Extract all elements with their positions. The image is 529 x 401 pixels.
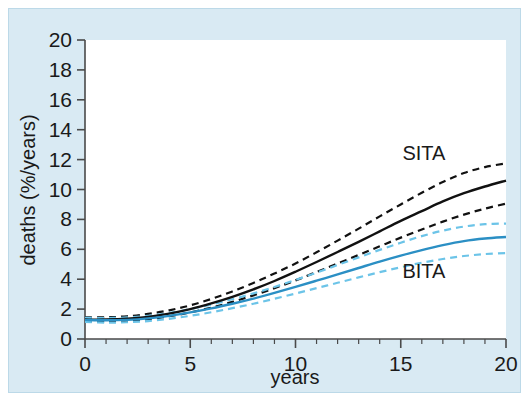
y-axis-title: deaths (%/years): [17, 114, 39, 265]
y-axis-tick-labels: 02468101214161820: [49, 28, 73, 350]
y-axis-ticks: [77, 40, 85, 339]
y-tick-label: 14: [49, 118, 73, 141]
y-tick-label: 4: [60, 267, 72, 290]
x-tick-label: 0: [79, 352, 91, 375]
y-tick-label: 20: [49, 28, 72, 51]
plot-area-background: [85, 40, 506, 339]
y-tick-label: 16: [49, 88, 72, 111]
y-tick-label: 10: [49, 178, 72, 201]
y-tick-label: 12: [49, 148, 72, 171]
x-tick-label: 5: [184, 352, 196, 375]
chart-figure: 05101520 02468101214161820 SITABITA year…: [8, 8, 521, 393]
y-tick-label: 6: [60, 237, 72, 260]
y-tick-label: 8: [60, 207, 72, 230]
y-tick-label: 0: [60, 327, 72, 350]
x-axis-ticks: [85, 339, 506, 348]
y-tick-label: 18: [49, 58, 72, 81]
series-label-sita: SITA: [402, 142, 446, 164]
x-tick-label: 15: [389, 352, 412, 375]
x-axis-title: years: [271, 366, 320, 388]
x-tick-label: 20: [494, 352, 517, 375]
series-label-bita: BITA: [402, 260, 446, 282]
y-tick-label: 2: [60, 297, 72, 320]
chart-svg: 05101520 02468101214161820 SITABITA year…: [9, 9, 522, 394]
